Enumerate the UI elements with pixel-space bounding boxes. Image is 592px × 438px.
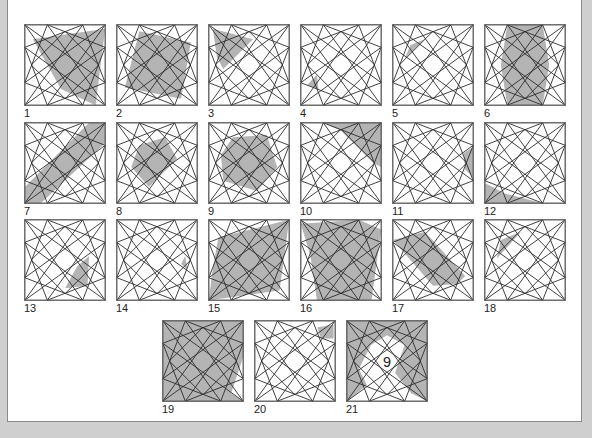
shaded-region [213, 29, 253, 69]
figure-drawing [208, 24, 290, 106]
figure-label: 6 [484, 107, 490, 119]
figure-drawing [300, 24, 382, 106]
figure-drawing: 9 [346, 320, 428, 402]
figure-drawing [24, 122, 106, 204]
center-number: 9 [383, 354, 391, 370]
figure-label: 8 [116, 205, 122, 217]
figure-label: 15 [208, 302, 220, 314]
figure-17: 17 [392, 219, 474, 317]
figure-label: 18 [484, 302, 496, 314]
figure-label: 4 [300, 107, 306, 119]
figure-label: 17 [392, 302, 404, 314]
figure-drawing [208, 219, 290, 301]
figure-8: 8 [116, 122, 198, 220]
figure-19: 19 [162, 320, 244, 418]
figure-7: 7 [24, 122, 106, 220]
figure-12: 12 [484, 122, 566, 220]
shaded-region [131, 137, 177, 187]
figure-16: 16 [300, 219, 382, 317]
figure-drawing [116, 24, 198, 106]
shaded-region [163, 321, 243, 401]
figure-drawing [208, 122, 290, 204]
figure-label: 9 [208, 205, 214, 217]
figure-drawing [116, 219, 198, 301]
figure-label: 21 [346, 403, 358, 415]
figure-10: 10 [300, 122, 382, 220]
figure-1: 1 [24, 24, 106, 122]
figure-drawing [24, 219, 106, 301]
figure-14: 14 [116, 219, 198, 317]
figure-drawing [162, 320, 244, 402]
figure-3: 3 [208, 24, 290, 122]
figure-drawing [392, 219, 474, 301]
figure-label: 12 [484, 205, 496, 217]
figure-label: 5 [392, 107, 398, 119]
figure-9: 9 [208, 122, 290, 220]
figure-drawing [392, 24, 474, 106]
figure-label: 10 [300, 205, 312, 217]
figure-11: 11 [392, 122, 474, 220]
figure-5: 5 [392, 24, 474, 122]
figure-label: 19 [162, 403, 174, 415]
figure-drawing [484, 122, 566, 204]
figure-18: 18 [484, 219, 566, 317]
figure-drawing [254, 320, 336, 402]
shaded-region [209, 220, 289, 300]
figure-2: 2 [116, 24, 198, 122]
figure-drawing [484, 24, 566, 106]
shaded-region [301, 220, 381, 300]
shaded-region [25, 123, 105, 203]
figure-label: 2 [116, 107, 122, 119]
figure-6: 6 [484, 24, 566, 122]
figure-drawing [24, 24, 106, 106]
figure-label: 13 [24, 302, 36, 314]
figure-4: 4 [300, 24, 382, 122]
figure-label: 16 [300, 302, 312, 314]
figure-15: 15 [208, 219, 290, 317]
figure-label: 20 [254, 403, 266, 415]
figure-label: 1 [24, 107, 30, 119]
figure-drawing [116, 122, 198, 204]
figure-label: 11 [392, 205, 403, 217]
figure-drawing [300, 122, 382, 204]
shaded-region [501, 25, 549, 105]
figure-13: 13 [24, 219, 106, 317]
figure-label: 7 [24, 205, 30, 217]
figure-label: 3 [208, 107, 214, 119]
shaded-region [393, 232, 465, 286]
figure-drawing [484, 219, 566, 301]
figure-drawing [300, 219, 382, 301]
figure-20: 20 [254, 320, 336, 418]
figure-label: 14 [116, 302, 128, 314]
figure-drawing [392, 122, 474, 204]
figure-21: 921 [346, 320, 428, 418]
shaded-region [221, 135, 277, 191]
shaded-region [181, 256, 187, 270]
